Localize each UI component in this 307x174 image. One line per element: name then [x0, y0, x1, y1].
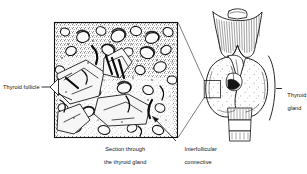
figure-root: Thyroid follicle Section through the thy… — [0, 0, 307, 173]
label-thyroid-follicle: Thyroid follicle — [3, 84, 40, 90]
label-section-caption: Section through the thyroid gland — [84, 140, 160, 172]
section-caption-line-2: the thyroid gland — [104, 159, 146, 165]
magnification-leader-lines — [178, 23, 204, 138]
micrograph-panel — [54, 23, 177, 138]
interfollicular-line-3: tissue — [184, 172, 199, 173]
interfollicular-line-2: connective — [184, 159, 211, 165]
thyroid-gland-brace — [269, 56, 282, 120]
interfollicular-line-1: Interfollicular — [184, 146, 216, 152]
trachea-rings — [228, 108, 252, 141]
label-thyroid-gland: Thyroid gland — [281, 86, 306, 118]
thyroid-gland-line-1: Thyroid — [287, 92, 306, 98]
label-interfollicular-connective-tissue: Interfollicular connective tissue — [178, 140, 217, 174]
larynx-thyroid-drawing — [206, 9, 268, 141]
section-caption-line-1: Section through — [105, 146, 145, 152]
hyoid-bone — [228, 9, 247, 19]
thyroid-gland-line-2: gland — [287, 105, 301, 111]
